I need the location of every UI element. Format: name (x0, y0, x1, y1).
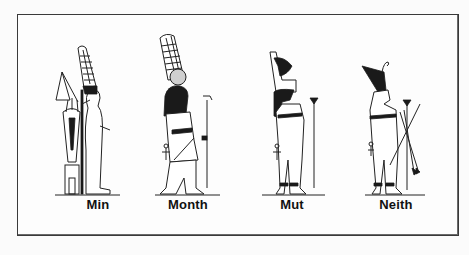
figure-min (55, 46, 120, 195)
label-min: Min (58, 197, 138, 212)
falcon-wig (164, 86, 188, 116)
figure-month (155, 34, 220, 195)
flail-icon (56, 72, 70, 100)
label-neith: Neith (356, 197, 436, 212)
figure-neith (362, 62, 425, 195)
figure-mut (262, 52, 325, 195)
label-month: Month (148, 197, 228, 212)
label-mut: Mut (252, 197, 332, 212)
body (166, 112, 198, 162)
shrine (65, 165, 79, 194)
deities-illustration (0, 0, 469, 255)
body (85, 90, 110, 194)
sun-disk (170, 69, 186, 85)
body (370, 90, 402, 194)
